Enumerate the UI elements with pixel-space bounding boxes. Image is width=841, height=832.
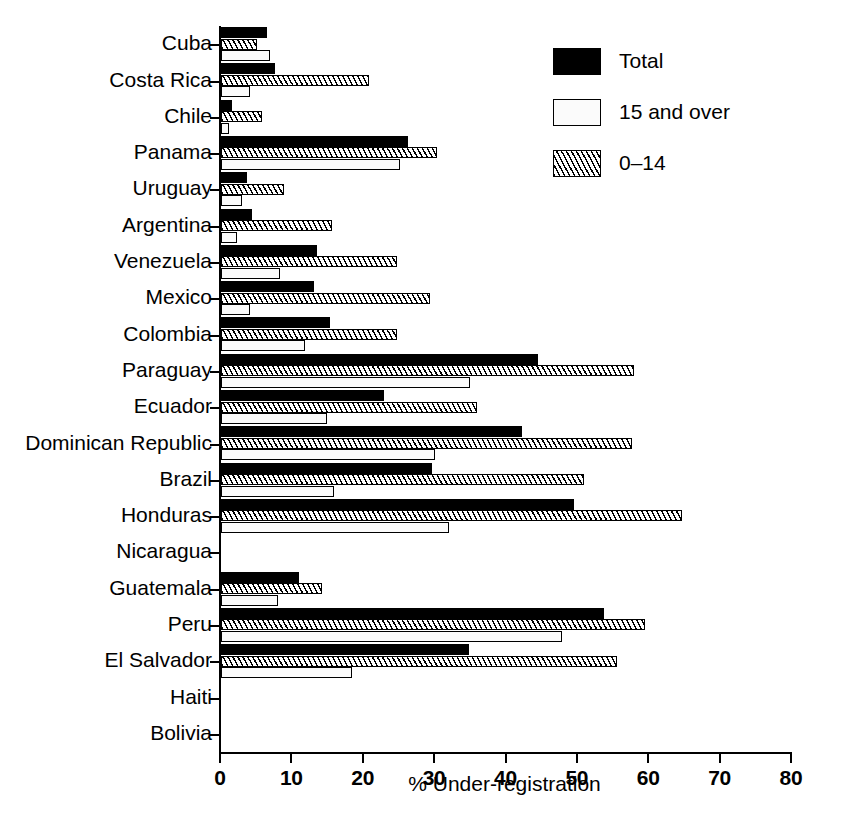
category-label: Brazil (0, 467, 212, 491)
bar-age-15-plus (221, 522, 449, 533)
y-axis-tick (210, 661, 219, 663)
category-label: Peru (0, 612, 212, 636)
bar-total (221, 63, 275, 74)
x-axis-title: % Under-registration (219, 772, 790, 796)
category-label: Cuba (0, 31, 212, 55)
bar-age-0-14 (221, 147, 437, 158)
x-axis-tick (576, 754, 578, 763)
y-axis-tick (210, 153, 219, 155)
legend-label: 15 and over (619, 100, 730, 124)
y-axis-tick (210, 516, 219, 518)
y-axis-tick (210, 552, 219, 554)
bar-age-15-plus (221, 377, 470, 388)
bar-total (221, 463, 432, 474)
y-axis-tick (210, 117, 219, 119)
bar-age-0-14 (221, 438, 632, 449)
y-axis-tick (210, 734, 219, 736)
x-axis-tick (790, 754, 792, 763)
bar-age-0-14 (221, 365, 634, 376)
category-label: Haiti (0, 685, 212, 709)
bar-age-15-plus (221, 268, 280, 279)
category-label: Panama (0, 140, 212, 164)
bar-total (221, 644, 469, 655)
plot-area: 01020304050607080 (219, 26, 790, 752)
category-label: Dominican Republic (0, 431, 212, 455)
y-axis-tick (210, 262, 219, 264)
x-axis-tick (505, 754, 507, 763)
bar-total (221, 354, 538, 365)
category-label: Costa Rica (0, 68, 212, 92)
bar-total (221, 136, 408, 147)
bar-age-15-plus (221, 50, 270, 61)
bar-age-15-plus (221, 413, 327, 424)
category-label: Chile (0, 104, 212, 128)
bar-age-0-14 (221, 39, 257, 50)
x-axis-tick (290, 754, 292, 763)
bar-age-15-plus (221, 304, 250, 315)
x-axis-tick (647, 754, 649, 763)
bar-total (221, 317, 330, 328)
bar-age-15-plus (221, 667, 352, 678)
bar-age-15-plus (221, 449, 435, 460)
bar-age-0-14 (221, 510, 682, 521)
legend-swatch-age-0-14 (553, 150, 601, 177)
bar-age-0-14 (221, 656, 617, 667)
x-axis-tick (433, 754, 435, 763)
y-axis-tick (210, 189, 219, 191)
chart-figure: CubaCosta RicaChilePanamaUruguayArgentin… (0, 0, 841, 832)
bar-age-0-14 (221, 184, 284, 195)
bar-age-0-14 (221, 256, 397, 267)
bar-age-0-14 (221, 583, 322, 594)
bar-age-15-plus (221, 232, 237, 243)
bar-total (221, 172, 247, 183)
bar-age-15-plus (221, 595, 278, 606)
bar-total (221, 281, 314, 292)
y-axis-line (219, 26, 221, 752)
bar-age-0-14 (221, 75, 369, 86)
legend-label: 0–14 (619, 151, 666, 175)
category-label: Honduras (0, 503, 212, 527)
legend-swatch-age-15-plus (553, 99, 601, 126)
bar-total (221, 499, 574, 510)
y-axis-tick (210, 44, 219, 46)
category-label: El Salvador (0, 648, 212, 672)
category-label: Paraguay (0, 358, 212, 382)
bar-total (221, 608, 604, 619)
bar-total (221, 426, 522, 437)
bar-age-0-14 (221, 474, 584, 485)
bar-total (221, 100, 232, 111)
y-axis-tick (210, 589, 219, 591)
category-label: Mexico (0, 285, 212, 309)
bar-age-0-14 (221, 293, 430, 304)
legend-label: Total (619, 49, 663, 73)
y-axis-tick (210, 480, 219, 482)
y-axis-tick (210, 298, 219, 300)
y-axis-tick (210, 226, 219, 228)
bar-age-15-plus (221, 195, 242, 206)
bar-age-0-14 (221, 220, 332, 231)
category-label: Bolivia (0, 721, 212, 745)
category-label: Venezuela (0, 249, 212, 273)
y-axis-tick (210, 335, 219, 337)
y-axis-tick (210, 371, 219, 373)
bar-age-0-14 (221, 329, 397, 340)
bar-age-15-plus (221, 631, 562, 642)
bar-total (221, 245, 317, 256)
y-axis-tick (210, 625, 219, 627)
bar-age-0-14 (221, 111, 262, 122)
y-axis-tick (210, 81, 219, 83)
y-axis-tick (210, 444, 219, 446)
x-axis-tick (719, 754, 721, 763)
bar-age-15-plus (221, 159, 400, 170)
bar-age-15-plus (221, 123, 229, 134)
category-label: Guatemala (0, 576, 212, 600)
y-axis-tick (210, 698, 219, 700)
category-label: Colombia (0, 322, 212, 346)
bar-age-15-plus (221, 86, 250, 97)
bar-total (221, 209, 252, 220)
category-label: Uruguay (0, 176, 212, 200)
y-axis-tick (210, 407, 219, 409)
bar-total (221, 27, 267, 38)
category-label: Argentina (0, 213, 212, 237)
bar-age-0-14 (221, 402, 477, 413)
